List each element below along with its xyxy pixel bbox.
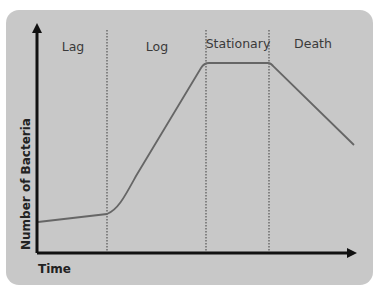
y-axis-arrow-icon: [32, 23, 42, 33]
x-axis-label: Time: [38, 262, 71, 276]
growth-curve: [38, 63, 354, 222]
phase-label-lag: Lag: [62, 39, 85, 54]
phase-label-log: Log: [146, 39, 168, 54]
x-axis-arrow-icon: [347, 248, 357, 258]
phase-label-stationary: Stationary: [206, 36, 271, 51]
phase-label-death: Death: [294, 36, 332, 51]
y-axis-label: Number of Bacteria: [19, 118, 33, 250]
growth-curve-diagram: Lag Log Stationary Death Time Number of …: [0, 0, 384, 289]
